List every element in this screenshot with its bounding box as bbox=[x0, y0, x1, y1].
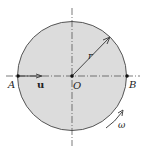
angular-velocity-arrow-head-icon bbox=[118, 110, 123, 116]
label-b: B bbox=[128, 79, 136, 90]
label-omega: ω bbox=[118, 120, 126, 130]
point-a-marker bbox=[16, 74, 20, 78]
point-b-marker bbox=[125, 74, 129, 78]
label-velocity-u: u bbox=[37, 79, 44, 90]
label-center-o: O bbox=[73, 80, 81, 91]
center-o-marker bbox=[70, 74, 74, 78]
disk-diagram: A u O B r ω bbox=[0, 0, 150, 147]
label-a: A bbox=[7, 79, 15, 90]
